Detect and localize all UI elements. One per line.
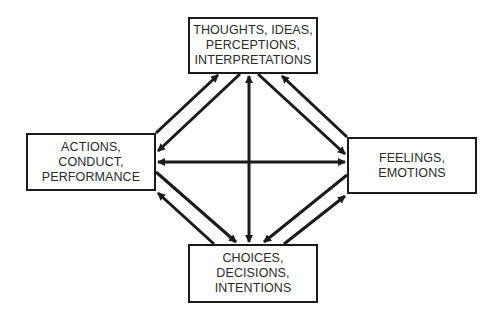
node-choices-line-1: CHOICES,: [215, 251, 292, 266]
node-choices-line-3: INTENTIONS: [215, 281, 292, 296]
arrow-thoughts-to-feelings: [258, 74, 345, 154]
node-actions-line-2: CONDUCT,: [42, 155, 140, 170]
node-actions-line-1: ACTIONS,: [42, 140, 140, 155]
node-thoughts-line-1: THOUGHTS, IDEAS,: [193, 23, 313, 38]
node-thoughts-line-3: INTERPRETATIONS: [193, 53, 313, 68]
arrow-actions-to-choices: [156, 172, 236, 242]
node-feelings-line-1: FEELINGS,: [378, 151, 445, 166]
arrow-thoughts-to-actions: [158, 74, 240, 151]
node-thoughts: THOUGHTS, IDEAS, PERCEPTIONS, INTERPRETA…: [188, 17, 318, 74]
node-actions-line-3: PERFORMANCE: [42, 170, 140, 185]
node-thoughts-line-2: PERCEPTIONS,: [193, 38, 313, 53]
arrow-choices-to-actions: [158, 193, 214, 244]
node-choices: CHOICES, DECISIONS, INTENTIONS: [188, 244, 318, 303]
node-actions: ACTIONS, CONDUCT, PERFORMANCE: [26, 133, 156, 191]
node-feelings: FEELINGS, EMOTIONS: [347, 137, 477, 194]
node-feelings-line-2: EMOTIONS: [378, 166, 445, 181]
node-choices-line-2: DECISIONS,: [215, 266, 292, 281]
arrow-feelings-to-choices: [264, 175, 347, 242]
